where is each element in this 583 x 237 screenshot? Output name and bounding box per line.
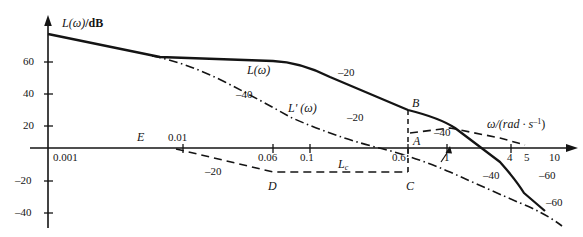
series-L-omega-path: [48, 34, 545, 211]
y-axis-title-main: L(ω): [62, 16, 85, 30]
slope-label-minus20-lower: –20: [205, 166, 222, 177]
curve-label-L-prime-omega: L' (ω): [288, 102, 317, 114]
series-L-prime-omega-path: [152, 56, 562, 226]
x-tick-label-001: 0.01: [168, 132, 187, 143]
y-axis-arrow-icon: [44, 15, 52, 26]
x-tick-label-5: 5: [524, 152, 530, 163]
y-axis-title-unit: /dB: [85, 16, 103, 30]
x-axis-title-sup: –1: [533, 117, 541, 126]
x-axis-title: ω/(rad · s–1): [487, 118, 545, 130]
slope-label-minus60-lower: –60: [546, 197, 563, 208]
x-tick-label-0001: 0.001: [53, 152, 78, 163]
y-tick-label-40: 40: [23, 88, 34, 99]
slope-label-minus40-bottom: –40: [483, 170, 500, 181]
slope-label-minus20-mid: –20: [347, 112, 364, 123]
series-L-omega: [48, 34, 545, 211]
slope-label-minus40-right: –40: [434, 127, 451, 138]
curve-label-L-omega: L(ω): [247, 64, 270, 76]
point-label-C: C: [406, 180, 414, 192]
x-tick-label-01: 0.1: [300, 152, 314, 163]
x-axis-arrow-icon: [566, 144, 578, 152]
x-axis-title-main: ω/(rad · s: [487, 117, 533, 131]
y-tick-label-60: 60: [23, 56, 34, 67]
slope-label-minus40-upper: –40: [236, 89, 253, 100]
bode-plot-figure: L(ω)/dB ω/(rad · s–1) 60 40 20 –20 –40 0…: [0, 0, 583, 237]
point-label-B: B: [412, 97, 419, 109]
x-tick-label-1: 1: [444, 152, 450, 163]
x-tick-label-10: 10: [549, 152, 560, 163]
y-axis-title: L(ω)/dB: [62, 17, 103, 29]
x-tick-label-006: 0.06: [258, 152, 277, 163]
curve-label-Lc: Lc: [338, 158, 348, 172]
y-tick-label-minus40: –40: [15, 207, 32, 218]
series-Lc: [176, 128, 525, 172]
x-axis-title-close: ): [541, 117, 545, 131]
x-tick-label-4: 4: [507, 152, 513, 163]
slope-label-minus60-upper: –60: [539, 170, 556, 181]
point-label-A: A: [413, 135, 420, 147]
slope-label-minus20-upper: –20: [338, 67, 355, 78]
x-tick-label-06: 0.6: [392, 152, 406, 163]
point-label-E: E: [137, 131, 144, 143]
y-tick-label-minus20: –20: [15, 175, 32, 186]
point-label-D: D: [268, 180, 277, 192]
series-L-prime-omega: [152, 56, 562, 226]
y-tick-label-20: 20: [23, 120, 34, 131]
